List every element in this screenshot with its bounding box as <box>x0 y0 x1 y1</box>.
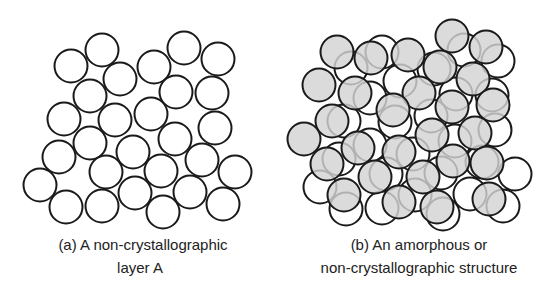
layer-b-circle <box>436 91 469 124</box>
layer-a-circle <box>43 141 76 174</box>
layer-b-circle <box>473 183 506 216</box>
layer-b-circle <box>377 94 410 127</box>
caption-b-line2: non-crystallographic structure <box>280 256 558 279</box>
layer-b-circle <box>436 20 469 53</box>
layer-a-circle <box>99 104 132 137</box>
layer-a-circle <box>117 136 150 169</box>
layer-a-circle <box>24 169 57 202</box>
layer-b-circle <box>477 89 510 122</box>
layer-a-circle <box>86 190 119 223</box>
caption-panel-b: (b) An amorphous or non-crystallographic… <box>280 233 558 279</box>
layer-b-circle <box>328 179 361 212</box>
layer-a-circle <box>202 43 235 76</box>
layer-b-circle <box>470 31 503 64</box>
caption-panel-a: (a) A non-crystallographic layer A <box>0 233 280 279</box>
layer-b-circle <box>407 161 440 194</box>
layer-b-circle <box>437 145 470 178</box>
layer-b-circle <box>355 42 388 75</box>
layer-a-circle <box>159 123 192 156</box>
layer-a-circle <box>135 98 168 131</box>
layer-a-circle <box>74 127 107 160</box>
layer-a-circle <box>219 156 252 189</box>
layer-a-circle <box>145 155 178 188</box>
layer-b-circle <box>359 161 392 194</box>
layer-a-circle <box>119 177 152 210</box>
layer-b-circle <box>421 191 454 224</box>
layer-b-circle <box>383 186 416 219</box>
caption-a-line2: layer A <box>0 256 280 279</box>
layer-b-circle <box>311 148 344 181</box>
layer-a-circle <box>196 77 229 110</box>
layer-a-circle <box>147 196 180 229</box>
layer-b-circle <box>383 136 416 169</box>
layer-a-circle <box>50 191 83 224</box>
layer-b-circle <box>471 147 504 180</box>
layer-a-circle <box>90 156 123 189</box>
layer-b-circle <box>303 69 336 102</box>
panel-a-layer-a <box>24 32 252 229</box>
layer-a-circle <box>55 50 88 83</box>
layer-b-circle <box>321 36 354 69</box>
layer-b-circle <box>316 105 349 138</box>
layer-a-circle <box>174 176 207 209</box>
layer-a-circle <box>86 34 119 67</box>
layer-b-circle <box>342 132 375 165</box>
layer-a-circle <box>186 144 219 177</box>
caption-a-line1: (a) A non-crystallographic <box>0 233 280 256</box>
layer-a-circle <box>48 103 81 136</box>
layer-a-circle <box>74 80 107 113</box>
layer-a-circle <box>104 63 137 96</box>
layer-a-circle <box>207 188 240 221</box>
layer-a-circle <box>199 112 232 145</box>
caption-b-line1: (b) An amorphous or <box>280 233 558 256</box>
layer-b-circle <box>339 77 372 110</box>
layer-b-circle <box>459 117 492 150</box>
layer-b-circle <box>288 123 321 156</box>
layer-a-circle <box>168 32 201 65</box>
layer-b-circle <box>392 39 425 72</box>
